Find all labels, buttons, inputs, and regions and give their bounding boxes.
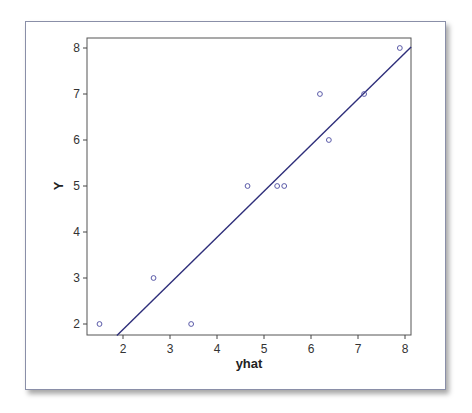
x-tick-label: 3 (167, 342, 174, 356)
x-tick-label: 2 (120, 342, 127, 356)
x-tick-label: 8 (402, 342, 409, 356)
y-tick-label: 8 (73, 41, 80, 55)
plot-area (87, 38, 411, 335)
x-axis-label: yhat (236, 356, 263, 371)
y-axis-label: Y (51, 181, 66, 190)
x-tick-label: 5 (261, 342, 268, 356)
scatter-plot: 23456782345678 yhat Y (0, 0, 472, 413)
y-tick-label: 4 (73, 225, 80, 239)
y-tick-label: 3 (73, 271, 80, 285)
x-tick-label: 6 (308, 342, 315, 356)
y-tick-label: 7 (73, 87, 80, 101)
y-tick-label: 6 (73, 133, 80, 147)
x-tick-label: 7 (355, 342, 362, 356)
x-tick-label: 4 (214, 342, 221, 356)
y-tick-label: 2 (73, 317, 80, 331)
y-tick-label: 5 (73, 179, 80, 193)
